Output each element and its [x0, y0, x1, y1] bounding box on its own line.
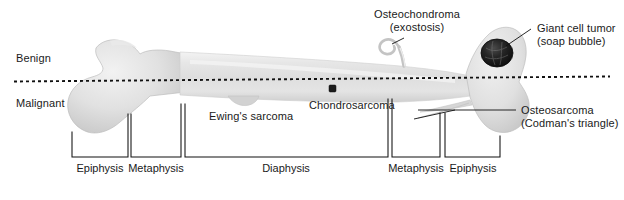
proximal-epiphysis-shape	[68, 40, 186, 133]
leader-osteosarcoma-branch	[414, 110, 455, 119]
osteosarcoma-annotation: Osteosarcoma (Codman's triangle)	[521, 104, 619, 129]
giant-cell-tumor-label-line2: (soap bubble)	[537, 35, 616, 48]
bracket-metaphysis-proximal	[131, 104, 181, 157]
osteochondroma-label-line2: (exostosis)	[358, 21, 476, 34]
giant-cell-tumor-lesion-shape	[481, 39, 513, 67]
chondrosarcoma-annotation: Chondrosarcoma	[309, 99, 395, 112]
ewings-sarcoma-lesion-shape	[228, 96, 259, 106]
osteosarcoma-label-line2: (Codman's triangle)	[521, 117, 619, 130]
giant-cell-tumor-annotation: Giant cell tumor (soap bubble)	[537, 22, 616, 47]
chondrosarcoma-lesion-shape	[329, 85, 336, 92]
malignant-label: Malignant	[16, 97, 65, 110]
osteochondroma-label-line1: Osteochondroma	[358, 8, 476, 21]
region-label-epiphysis-distal: Epiphysis	[436, 162, 510, 174]
osteochondroma-annotation: Osteochondroma (exostosis)	[358, 8, 476, 33]
giant-cell-tumor-label-line1: Giant cell tumor	[537, 22, 616, 35]
region-label-metaphysis-proximal: Metaphysis	[118, 162, 194, 174]
region-label-diaphysis: Diaphysis	[249, 162, 323, 174]
osteosarcoma-label-line1: Osteosarcoma	[521, 104, 619, 117]
bone-tumor-diagram: Benign Malignant Osteochondroma (exostos…	[0, 0, 624, 200]
ewings-sarcoma-annotation: Ewing's sarcoma	[209, 110, 293, 123]
benign-label: Benign	[16, 52, 51, 65]
bracket-metaphysis-distal	[392, 99, 440, 157]
